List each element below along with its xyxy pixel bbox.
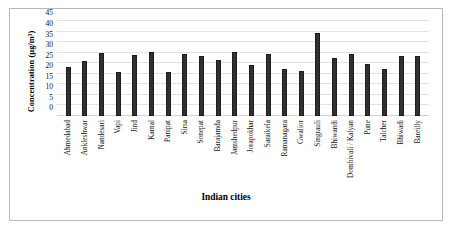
bar-slot — [276, 21, 293, 116]
x-label-slot: Talcher — [376, 118, 393, 194]
x-label-slot: Jorapokhar — [243, 118, 260, 194]
bar — [415, 56, 420, 116]
x-label-slot: Ramanagara — [276, 118, 293, 194]
bar — [199, 56, 204, 116]
x-label-slot: Barajamda — [210, 118, 227, 194]
x-label-slot: Nandesari — [93, 118, 110, 194]
bar-slot — [343, 21, 360, 116]
bar-slot — [77, 21, 94, 116]
bar — [66, 67, 71, 116]
x-axis-title: Indian cities — [10, 192, 442, 202]
x-axis-tick-label: Saraikela — [264, 120, 271, 147]
y-axis-tick-label: 35 — [45, 31, 53, 39]
x-label-slot: Dombivali / Kalyan — [343, 118, 360, 194]
bar-slot — [376, 21, 393, 116]
bar — [266, 54, 271, 116]
y-axis-tick-label: 30 — [45, 41, 53, 49]
y-axis-tick-label: 10 — [45, 84, 53, 92]
bar-slot — [193, 21, 210, 116]
bar-slot — [210, 21, 227, 116]
x-axis-tick-label: Gwalior — [298, 120, 305, 144]
bar-slot — [226, 21, 243, 116]
x-label-slot: Bareilly — [409, 118, 426, 194]
x-axis-tick-label: Jamshedpur — [231, 120, 238, 155]
bar-slot — [293, 21, 310, 116]
x-label-slot: Singrauli — [310, 118, 327, 194]
bar — [99, 53, 104, 116]
bar — [116, 72, 121, 116]
bar — [149, 52, 154, 116]
bar-slot — [93, 21, 110, 116]
bar-slot — [409, 21, 426, 116]
x-axis-tick-label: Bhiwandi — [331, 120, 338, 148]
bar — [282, 69, 287, 116]
bar — [249, 65, 254, 116]
y-axis-tick-label: 20 — [45, 62, 53, 70]
x-axis-tick-label: Karnal — [148, 120, 155, 140]
x-axis-tick-label: Dombivali / Kalyan — [348, 120, 355, 178]
x-axis-tick-label: Vapi — [115, 120, 122, 133]
x-axis-tick-label: Panipat — [165, 120, 172, 142]
bar-slot — [143, 21, 160, 116]
bar — [399, 56, 404, 116]
x-label-slot: Vapi — [110, 118, 127, 194]
x-label-slot: Sirsa — [176, 118, 193, 194]
x-label-slot: Karnal — [143, 118, 160, 194]
y-axis-tick-label: 25 — [45, 52, 53, 60]
x-axis-tick-label: Jorapokhar — [248, 120, 255, 152]
x-label-slot: Pune — [360, 118, 377, 194]
x-axis-tick-label: Ankleshwar — [81, 120, 88, 155]
bar-slot — [243, 21, 260, 116]
x-axis-tick-label: Sonepat — [198, 120, 205, 144]
bar-slot — [360, 21, 377, 116]
bar — [365, 64, 370, 116]
x-label-slot: Ahmedabad — [60, 118, 77, 194]
y-axis-tick-label: 5 — [49, 94, 53, 102]
bar — [182, 54, 187, 116]
x-axis-tick-label: Bhiwadi — [397, 120, 404, 145]
bar-slot — [127, 21, 144, 116]
x-label-slot: Sonepat — [193, 118, 210, 194]
bar-slot — [60, 21, 77, 116]
y-axis-tick-label: 15 — [45, 73, 53, 81]
bar-slot — [326, 21, 343, 116]
bar — [382, 69, 387, 117]
bar — [166, 72, 171, 116]
bar-slot — [260, 21, 277, 116]
bar-slot — [160, 21, 177, 116]
x-label-slot: Saraikela — [260, 118, 277, 194]
bar — [332, 58, 337, 116]
x-axis-tick-label: Ahmedabad — [65, 120, 72, 155]
chart-figure: Concentration (µg/m³) 051015202530354045… — [9, 8, 443, 221]
x-label-slot: Jamshedpur — [226, 118, 243, 194]
x-axis-tick-label: Talcher — [381, 120, 388, 142]
bar — [349, 54, 354, 116]
bar-slot — [110, 21, 127, 116]
bar — [132, 55, 137, 116]
x-axis-tick-label: Barajamda — [214, 120, 221, 152]
y-axis-tick-label: 40 — [45, 20, 53, 28]
x-label-slot: Bhiwandi — [326, 118, 343, 194]
plot-area: 051015202530354045 — [57, 21, 429, 116]
x-label-slot: Gwalior — [293, 118, 310, 194]
x-label-slot: Bhiwadi — [393, 118, 410, 194]
bar — [232, 52, 237, 116]
y-axis-title: Concentration (µg/m³) — [27, 13, 36, 131]
bar-slot — [176, 21, 193, 116]
x-axis-tick-label: Singrauli — [314, 120, 321, 147]
bar — [299, 71, 304, 116]
x-axis-tick-label: Jind — [131, 120, 138, 132]
x-axis-tick-labels: AhmedabadAnkleshwarNandesariVapiJindKarn… — [57, 118, 429, 194]
bar-series — [57, 21, 429, 116]
bar — [82, 61, 87, 116]
bar — [315, 33, 320, 116]
bar-slot — [310, 21, 327, 116]
bar-slot — [393, 21, 410, 116]
bar — [216, 60, 221, 116]
x-axis-tick-label: Bareilly — [414, 120, 421, 144]
x-axis-tick-label: Nandesari — [98, 120, 105, 150]
x-label-slot: Panipat — [160, 118, 177, 194]
x-axis-tick-label: Ramanagara — [281, 120, 288, 156]
y-axis-tick-label: 45 — [45, 10, 53, 18]
x-label-slot: Jind — [127, 118, 144, 194]
